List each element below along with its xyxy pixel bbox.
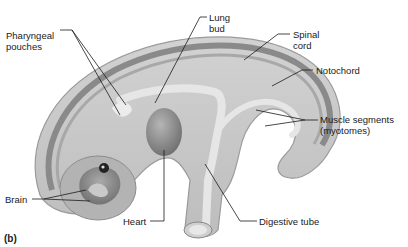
label-digestive-tube: Digestive tube bbox=[259, 216, 319, 227]
label-pharyngeal-pouches: Pharyngeal pouches bbox=[6, 30, 54, 52]
heart-shape bbox=[146, 108, 182, 156]
panel-label: (b) bbox=[4, 233, 17, 244]
label-brain: Brain bbox=[5, 194, 27, 205]
label-lung-bud: Lung bud bbox=[209, 12, 230, 34]
label-muscle-segments: Muscle segments (myotomes) bbox=[320, 114, 394, 136]
label-spinal-cord: Spinal cord bbox=[293, 29, 319, 51]
label-notochord: Notochord bbox=[316, 65, 360, 76]
label-heart: Heart bbox=[123, 216, 146, 227]
